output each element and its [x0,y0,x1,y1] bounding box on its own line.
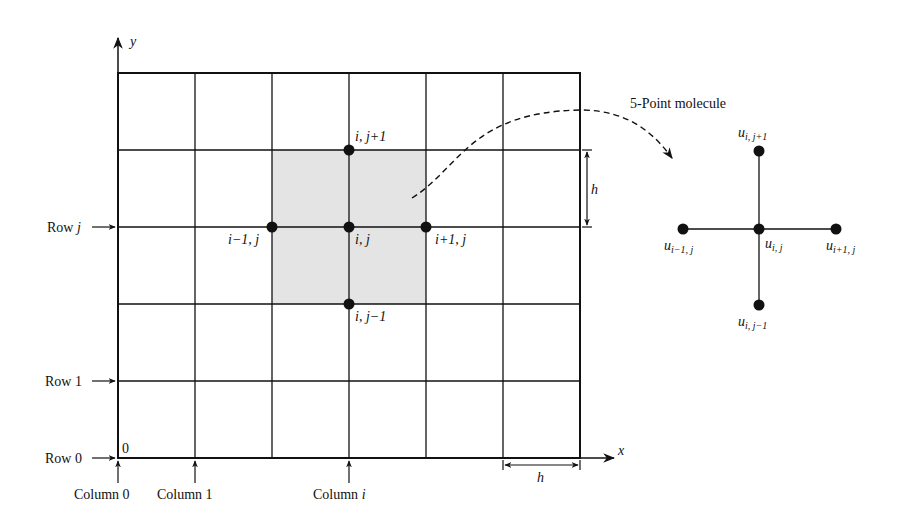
node-top [344,145,355,156]
node-center [344,222,355,233]
x-axis-label: x [617,443,625,458]
row-0-label: Row 0 [45,451,82,466]
row-j-label: Row j [47,220,81,235]
h-label-right: h [591,182,598,197]
node-label-bottom: i, j−1 [355,309,386,324]
node-label-center: i, j [355,232,370,247]
molecule-label-bottom: ui, j−1 [738,314,767,331]
dashed-callout-arrow [412,110,672,198]
finite-difference-grid-diagram: y x 0 Row j Row 1 Row 0 Column 0 Column … [0,0,904,528]
node-left [267,222,278,233]
molecule-label-top: ui, j+1 [738,125,767,142]
molecule-label-left: ui−1, j [664,238,694,255]
molecule-label-center: ui, j [765,236,783,253]
molecule-title: 5-Point molecule [630,96,726,111]
h-label-bottom: h [537,470,544,485]
column-0-label: Column 0 [74,487,130,502]
grid-lines [118,73,580,458]
column-i-label: Column i [313,487,366,502]
y-axis-label: y [128,34,137,49]
column-1-label: Column 1 [157,487,213,502]
molecule-label-right: ui+1, j [826,238,856,255]
node-label-top: i, j+1 [355,129,386,144]
node-bottom [344,299,355,310]
node-label-left: i−1, j [228,232,259,247]
node-right [421,222,432,233]
row-1-label: Row 1 [45,374,82,389]
node-label-right: i+1, j [435,232,466,247]
origin-label: 0 [122,441,129,456]
